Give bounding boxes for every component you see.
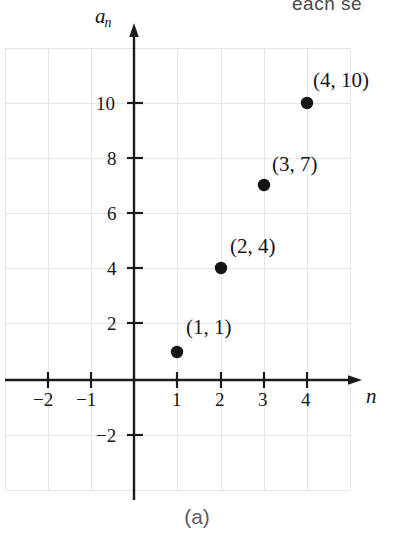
y-axis-name: an — [95, 6, 112, 30]
data-point — [301, 97, 313, 109]
grid-lines — [5, 48, 350, 490]
point-label-1-1: (1, 1) — [186, 317, 232, 338]
x-tick-label-minus-1: −1 — [76, 390, 96, 409]
x-tick-label-4: 4 — [301, 390, 311, 409]
x-tick-label-2: 2 — [215, 390, 225, 409]
x-axis-name: n — [366, 386, 377, 407]
y-tick-label-2: 2 — [107, 314, 117, 333]
x-tick-label-minus-2: −2 — [33, 390, 53, 409]
scatter-plot: an n 10 8 6 4 2 −2 −2 −1 1 2 3 4 (1, 1) … — [0, 0, 394, 500]
x-axis — [5, 375, 362, 385]
figure-caption: (a) — [0, 505, 394, 529]
y-tick-label-minus-2: −2 — [96, 426, 116, 445]
point-label-2-4: (2, 4) — [230, 236, 276, 257]
y-axis-name-subscript: n — [105, 15, 112, 30]
point-label-4-10: (4, 10) — [313, 70, 369, 91]
data-point — [215, 262, 227, 274]
y-tick-label-8: 8 — [107, 149, 117, 168]
point-label-3-7: (3, 7) — [272, 154, 318, 175]
x-tick-label-1: 1 — [172, 390, 182, 409]
y-axis — [129, 23, 139, 500]
y-axis-name-letter: a — [95, 4, 106, 28]
data-point — [258, 179, 270, 191]
data-point — [171, 346, 183, 358]
x-tick-label-3: 3 — [258, 390, 268, 409]
y-tick-label-4: 4 — [107, 259, 117, 278]
y-tick-label-6: 6 — [107, 204, 117, 223]
y-tick-label-10: 10 — [96, 94, 115, 113]
